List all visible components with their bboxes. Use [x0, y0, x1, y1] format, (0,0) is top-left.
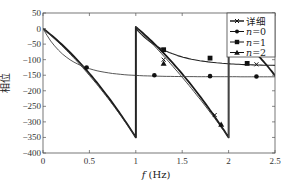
y-tick-label: −100 [22, 55, 41, 65]
y-tick-label: −400 [22, 148, 41, 158]
x-tick-label: 2.5 [269, 156, 281, 166]
y-tick-label: −250 [22, 101, 41, 111]
circle-marker [84, 65, 89, 70]
legend-item-label: 详细 [246, 16, 266, 27]
legend-item-label: n=0 [246, 26, 266, 37]
phase-chart: 00.511.522.5500−50−100−150−200−250−300−3… [0, 0, 287, 185]
x-axis-label: f (Hz) [141, 169, 171, 180]
y-tick-label: −200 [22, 86, 41, 96]
x-tick-label: 1.5 [177, 156, 189, 166]
legend-item-label: n=1 [246, 37, 266, 48]
y-tick-label: 50 [32, 8, 42, 18]
square-marker [161, 47, 166, 52]
circle-marker [208, 74, 213, 79]
x-marker [254, 62, 258, 66]
y-tick-label: −300 [22, 117, 41, 127]
square-marker [208, 56, 213, 61]
y-tick-label: −150 [22, 70, 41, 80]
circle-marker [152, 73, 157, 78]
x-tick-label: 1 [134, 156, 139, 166]
legend-item-label: n=2 [246, 47, 266, 58]
x-tick-label: 2 [226, 156, 231, 166]
x-tick-label: 0.5 [84, 156, 96, 166]
square-marker [245, 61, 250, 66]
circle-marker [254, 74, 259, 79]
y-tick-label: −50 [27, 39, 42, 49]
y-tick-label: 0 [37, 24, 42, 34]
x-tick-label: 0 [41, 156, 46, 166]
y-tick-label: −350 [22, 132, 41, 142]
y-axis-label: 相位 [0, 73, 11, 93]
legend: 详细n=0n=1n=2 [227, 13, 275, 58]
